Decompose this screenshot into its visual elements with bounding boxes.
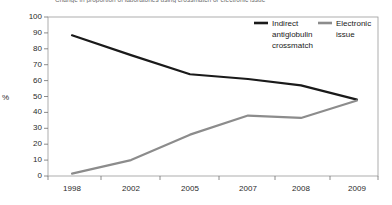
y-axis-tick-label: 100 bbox=[29, 13, 42, 21]
x-axis-tick-label: 2005 bbox=[181, 184, 199, 193]
x-axis-tick-marks bbox=[48, 176, 378, 180]
legend-label: Indirect bbox=[272, 19, 299, 28]
x-axis-tick-label: 2002 bbox=[122, 184, 140, 193]
y-axis-tick-label: 90 bbox=[33, 29, 42, 37]
legend-label: Electronic bbox=[336, 19, 371, 28]
y-axis-tick-label: 50 bbox=[33, 93, 42, 101]
y-axis-tick-labels: 1009080706050403020100 bbox=[0, 0, 42, 205]
plot-area: IndirectantiglobulincrossmatchElectronic… bbox=[0, 0, 392, 205]
legend-label: crossmatch bbox=[272, 41, 313, 50]
y-axis-tick-label: 40 bbox=[33, 108, 42, 116]
legend-label: issue bbox=[336, 30, 355, 39]
y-axis-tick-marks bbox=[44, 17, 48, 176]
chart-figure: Change in proportion of laboratories usi… bbox=[0, 0, 392, 205]
chart-title: Change in proportion of laboratories usi… bbox=[55, 0, 355, 3]
x-axis-tick-label: 2008 bbox=[292, 184, 310, 193]
y-axis-tick-label: 10 bbox=[33, 156, 42, 164]
y-axis-tick-label: 80 bbox=[33, 45, 42, 53]
x-axis-tick-label: 2007 bbox=[239, 184, 257, 193]
legend-label: antiglobulin bbox=[272, 30, 312, 39]
x-axis-tick-label: 2009 bbox=[348, 184, 366, 193]
y-axis-tick-label: 60 bbox=[33, 77, 42, 85]
y-axis-tick-label: 0 bbox=[38, 172, 42, 180]
y-axis-tick-label: 30 bbox=[33, 124, 42, 132]
x-axis-tick-label: 1998 bbox=[63, 184, 81, 193]
plot-background bbox=[48, 17, 378, 176]
y-axis-tick-label: 70 bbox=[33, 61, 42, 69]
y-axis-tick-label: 20 bbox=[33, 140, 42, 148]
